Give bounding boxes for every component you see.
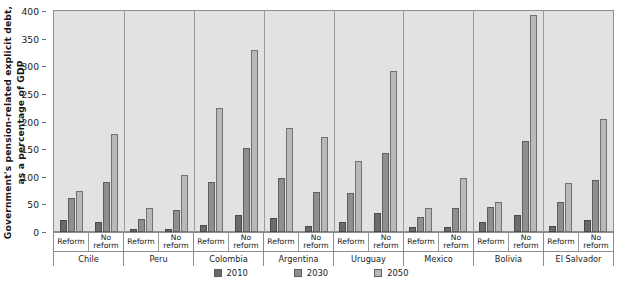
legend-label: 2050 (387, 268, 408, 278)
country-group (124, 11, 194, 232)
y-tick-label: 400 (21, 6, 39, 17)
category-country-label: Bolivia (474, 252, 543, 266)
policy-group (229, 11, 264, 232)
bar-2010 (60, 220, 67, 232)
y-tick-mark (42, 39, 46, 40)
policy-group (368, 11, 403, 232)
policy-group (543, 11, 578, 232)
category-country-label: Mexico (404, 252, 473, 266)
legend-item-2010: 2010 (214, 268, 248, 278)
category-policy-label: Noreform (438, 233, 473, 251)
bar-2030 (208, 182, 215, 232)
y-tick-mark (42, 66, 46, 67)
y-tick-mark (42, 94, 46, 95)
legend-swatch-icon (294, 269, 302, 277)
bar-2050 (146, 208, 153, 232)
category-policy-label: Reform (264, 233, 298, 251)
y-tick-mark (42, 122, 46, 123)
bar-2030 (347, 193, 354, 232)
y-tick-mark (42, 204, 46, 205)
category-policy-label: Reform (334, 233, 368, 251)
bar-2050 (425, 208, 432, 232)
bar-2050 (76, 191, 83, 232)
bar-2030 (243, 148, 250, 232)
category-policy-label: Noreform (88, 233, 123, 251)
bar-2050 (600, 119, 607, 232)
bar-2030 (452, 208, 459, 232)
chart-legend: 201020302050 (0, 268, 622, 278)
category-country-label: Peru (124, 252, 193, 266)
bar-2030 (278, 178, 285, 232)
country-group (334, 11, 404, 232)
policy-group (334, 11, 369, 232)
bar-2050 (355, 161, 362, 232)
y-tick-mark (42, 177, 46, 178)
legend-swatch-icon (374, 269, 382, 277)
policy-group (194, 11, 229, 232)
y-tick-label: 0 (33, 227, 39, 238)
bar-2030 (68, 198, 75, 232)
bar-2010 (95, 222, 102, 232)
category-country: ReformNoreformEl Salvador (543, 232, 613, 266)
policy-group (438, 11, 473, 232)
policy-group (124, 11, 159, 232)
policy-group (473, 11, 508, 232)
category-policy-row: ReformNoreform (474, 232, 543, 252)
category-policy-row: ReformNoreform (54, 232, 123, 252)
country-group (194, 11, 264, 232)
category-policy-label: Noreform (298, 233, 333, 251)
policy-group (578, 11, 613, 232)
category-policy-row: ReformNoreform (334, 232, 403, 252)
bar-2050 (495, 202, 502, 232)
country-group (403, 11, 473, 232)
policy-group (403, 11, 438, 232)
policy-group (264, 11, 299, 232)
policy-group (508, 11, 543, 232)
category-country-label: Uruguay (334, 252, 403, 266)
category-country: ReformNoreformBolivia (473, 232, 543, 266)
y-tick-label: 150 (21, 144, 39, 155)
category-country-label: Chile (54, 252, 123, 266)
category-policy-label: Noreform (158, 233, 193, 251)
y-tick-label: 250 (21, 88, 39, 99)
bar-2050 (286, 128, 293, 232)
category-country: ReformNoreformMexico (403, 232, 473, 266)
bar-2030 (417, 217, 424, 232)
category-policy-label: Noreform (508, 233, 543, 251)
bar-2010 (479, 222, 486, 232)
bar-2030 (487, 207, 494, 232)
category-policy-label: Noreform (368, 233, 403, 251)
y-tick-mark (42, 232, 46, 233)
bar-2010 (270, 218, 277, 232)
y-tick-label: 50 (27, 199, 39, 210)
category-axis: ReformNoreformChileReformNoreformPeruRef… (53, 232, 614, 266)
bar-2010 (235, 215, 242, 232)
legend-item-2050: 2050 (374, 268, 408, 278)
category-country: ReformNoreformArgentina (263, 232, 333, 266)
legend-label: 2010 (227, 268, 248, 278)
category-policy-row: ReformNoreform (194, 232, 263, 252)
bar-2030 (557, 202, 564, 232)
category-policy-label: Reform (544, 233, 578, 251)
category-policy-label: Reform (474, 233, 508, 251)
policy-group (89, 11, 124, 232)
country-group (54, 11, 124, 232)
legend-item-2030: 2030 (294, 268, 328, 278)
policy-group (159, 11, 194, 232)
bar-2050 (181, 175, 188, 232)
y-tick-label: 300 (21, 61, 39, 72)
legend-swatch-icon (214, 269, 222, 277)
y-tick-label: 350 (21, 33, 39, 44)
category-policy-row: ReformNoreform (544, 232, 613, 252)
bar-2010 (200, 225, 207, 232)
category-country-label: Colombia (194, 252, 263, 266)
bar-2050 (460, 178, 467, 232)
category-policy-label: Reform (194, 233, 228, 251)
category-policy-row: ReformNoreform (124, 232, 193, 252)
bar-2030 (138, 219, 145, 232)
legend-label: 2030 (307, 268, 328, 278)
country-group (543, 11, 613, 232)
bar-2010 (514, 215, 521, 232)
category-country-label: El Salvador (544, 252, 613, 266)
country-group (264, 11, 334, 232)
